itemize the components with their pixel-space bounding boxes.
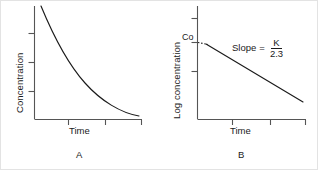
panel-b: Log concentration Co Slope = K 2.3 Time … [160,1,318,170]
panel-a-y-axis-label: Concentration [15,53,25,113]
slope-annotation-word: Slope [232,42,256,53]
figure-container: Concentration Time A Log concentration C… [0,0,318,170]
panel-b-x-axis-label: Time [230,125,251,136]
panel-a-x-axis-label: Time [69,125,90,136]
panel-b-y-axis-label: Log concentration [172,42,182,119]
slope-annotation-fraction: K 2.3 [268,38,285,59]
panel-b-letter: B [238,149,244,160]
panel-b-slope-annotation: Slope = K 2.3 [232,37,285,58]
panel-a-decay-curve [41,6,139,116]
slope-annotation-equals: = [259,42,265,53]
panel-a: Concentration Time A [1,1,160,170]
panel-b-intercept-label: Co [182,32,194,42]
panel-b-plot [160,1,318,170]
slope-fraction-denominator: 2.3 [268,49,285,59]
panel-a-letter: A [76,149,82,160]
